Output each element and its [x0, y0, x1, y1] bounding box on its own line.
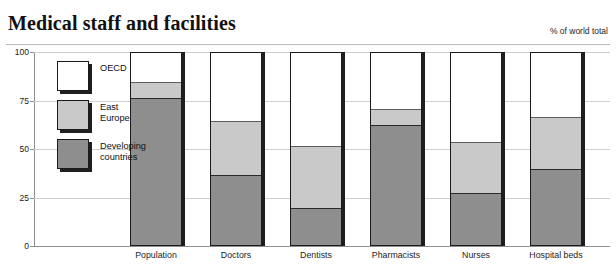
legend-item-oecd[interactable]: OECD — [57, 59, 149, 98]
bar-dentists[interactable] — [290, 52, 342, 246]
segment-east-europe — [211, 121, 261, 175]
segment-developing-countries — [371, 125, 421, 245]
chart-page: Medical staff and facilities % of world … — [0, 0, 616, 274]
x-axis-label-hospital-beds: Hospital beds — [529, 250, 582, 260]
segment-developing-countries — [531, 169, 581, 245]
units-label: % of world total — [550, 26, 608, 36]
y-tick-100 — [30, 52, 34, 53]
segment-east-europe — [291, 146, 341, 208]
segment-developing-countries — [451, 193, 501, 245]
legend-swatch-icon — [57, 100, 89, 130]
y-tick-label-0: 0 — [24, 242, 29, 251]
y-tick-50 — [30, 149, 34, 150]
header-divider — [6, 44, 610, 45]
y-axis-labels: 1007550250 — [0, 52, 30, 246]
legend-swatch-icon — [57, 139, 89, 169]
bar-nurses[interactable] — [450, 52, 502, 246]
bar-pharmacists[interactable] — [370, 52, 422, 246]
bar-doctors[interactable] — [210, 52, 262, 246]
y-tick-label-25: 25 — [20, 193, 29, 202]
segment-oecd — [531, 53, 581, 119]
segment-east-europe — [371, 109, 421, 125]
bar-hospital-beds[interactable] — [530, 52, 582, 246]
segment-developing-countries — [211, 175, 261, 245]
y-tick-25 — [30, 198, 34, 199]
x-axis-label-doctors: Doctors — [221, 250, 251, 260]
segment-oecd — [211, 53, 261, 123]
chart-legend: OECDEast EuropeDeveloping countries — [57, 59, 149, 176]
segment-east-europe — [531, 117, 581, 169]
x-axis-label-nurses: Nurses — [462, 250, 490, 260]
segment-east-europe — [451, 142, 501, 192]
legend-label: Developing countries — [100, 141, 146, 163]
y-tick-0 — [30, 246, 34, 247]
legend-label: OECD — [100, 63, 127, 74]
x-axis-label-dentists: Dentists — [300, 250, 332, 260]
y-tick-label-75: 75 — [20, 96, 29, 105]
page-title: Medical staff and facilities — [8, 12, 236, 35]
segment-oecd — [371, 53, 421, 111]
legend-swatch-icon — [57, 61, 89, 91]
gridline-0 — [34, 246, 610, 247]
segment-oecd — [451, 53, 501, 144]
segment-developing-countries — [291, 208, 341, 245]
y-tick-75 — [30, 101, 34, 102]
legend-item-east[interactable]: East Europe — [57, 98, 149, 137]
segment-oecd — [291, 53, 341, 148]
legend-item-developing[interactable]: Developing countries — [57, 137, 149, 176]
x-axis-label-population: Population — [135, 250, 177, 260]
y-tick-label-50: 50 — [20, 145, 29, 154]
y-tick-label-100: 100 — [15, 48, 29, 57]
legend-label: East Europe — [100, 102, 130, 124]
x-axis-label-pharmacists: Pharmacists — [372, 250, 420, 260]
